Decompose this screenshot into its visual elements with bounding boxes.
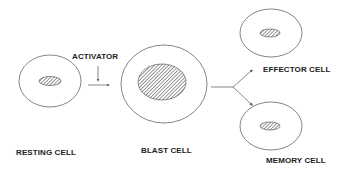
- resting-to-blast-arrow: [88, 84, 110, 86]
- effector-cell: [240, 9, 302, 57]
- resting-cell-label: RESTING CELL: [16, 148, 76, 157]
- branch-arrow: [211, 70, 253, 107]
- blast-cell-label: BLAST CELL: [141, 146, 192, 155]
- memory-cell-label: MEMORY CELL: [266, 156, 326, 165]
- memory-cell: [240, 102, 302, 150]
- activator-label: ACTIVATOR: [72, 52, 118, 61]
- cell-differentiation-diagram: ACTIVATOR RESTING CELL BLAST CELL EFFECT…: [0, 0, 349, 173]
- blast-cell: [121, 45, 207, 123]
- effector-cell-label: EFFECTOR CELL: [263, 65, 330, 74]
- resting-cell: [19, 55, 81, 107]
- activator-arrow: [97, 66, 99, 82]
